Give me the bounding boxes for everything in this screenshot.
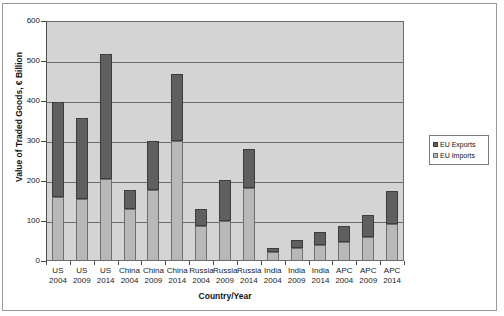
- legend-item-eu-imports: EU Imports: [433, 150, 486, 161]
- bar-segment-eu-exports: [291, 240, 303, 248]
- bar-chart: 6005004003002001000 Value of Traded Good…: [0, 0, 504, 316]
- bar-segment-eu-imports: [100, 179, 112, 261]
- bar-segment-eu-exports: [362, 215, 374, 237]
- bar-us-2009[interactable]: [76, 21, 88, 261]
- bar-russia-2014[interactable]: [243, 21, 255, 261]
- bar-segment-eu-imports: [386, 224, 398, 261]
- x-tick-label-china-2004: China2004: [118, 266, 142, 286]
- x-tick-10: [285, 261, 286, 265]
- x-tick-14: [380, 261, 381, 265]
- bar-segment-eu-imports: [147, 190, 159, 261]
- bar-segment-eu-imports: [314, 245, 326, 261]
- x-tick-label-apc-2009: APC2009: [356, 266, 380, 286]
- bar-segment-eu-exports: [314, 232, 326, 245]
- chart-legend: EU Exports EU Imports: [429, 135, 489, 165]
- bar-segment-eu-exports: [124, 190, 136, 209]
- bar-segment-eu-imports: [243, 188, 255, 261]
- x-tick-1: [70, 261, 71, 265]
- bar-apc-2004[interactable]: [338, 21, 350, 261]
- bar-segment-eu-imports: [362, 237, 374, 261]
- bars-layer: [46, 21, 404, 261]
- x-tick-7: [213, 261, 214, 265]
- x-tick-label-us-2014: US2014: [94, 266, 118, 286]
- bar-india-2004[interactable]: [267, 21, 279, 261]
- bar-segment-eu-exports: [243, 149, 255, 188]
- x-tick-6: [189, 261, 190, 265]
- x-tick-label-india-2014: India2014: [309, 266, 333, 286]
- x-tick-12: [332, 261, 333, 265]
- bar-apc-2009[interactable]: [362, 21, 374, 261]
- x-tick-end: [404, 261, 405, 265]
- x-tick-3: [118, 261, 119, 265]
- x-tick-9: [261, 261, 262, 265]
- x-tick-0: [46, 261, 47, 265]
- bar-russia-2004[interactable]: [195, 21, 207, 261]
- bar-segment-eu-imports: [124, 209, 136, 261]
- x-tick-label-russia-2009: Russia2009: [213, 266, 237, 286]
- x-tick-11: [309, 261, 310, 265]
- bar-segment-eu-imports: [338, 242, 350, 261]
- x-tick-label-china-2014: China2014: [165, 266, 189, 286]
- x-tick-5: [165, 261, 166, 265]
- bar-india-2014[interactable]: [314, 21, 326, 261]
- bar-india-2009[interactable]: [291, 21, 303, 261]
- exports-swatch-icon: [433, 142, 438, 147]
- bar-us-2014[interactable]: [100, 21, 112, 261]
- x-tick-label-russia-2014: Russia2014: [237, 266, 261, 286]
- bar-segment-eu-exports: [76, 118, 88, 199]
- y-axis-title: Value of Traded Goods, € Billion: [14, 32, 24, 202]
- x-tick-2: [94, 261, 95, 265]
- bar-segment-eu-exports: [195, 209, 207, 226]
- x-tick-label-us-2004: US2004: [46, 266, 70, 286]
- imports-swatch-icon: [433, 153, 438, 158]
- bar-segment-eu-imports: [171, 141, 183, 261]
- y-tick-label-100: 100: [6, 217, 40, 225]
- bar-china-2009[interactable]: [147, 21, 159, 261]
- x-tick-label-us-2009: US2009: [70, 266, 94, 286]
- bar-segment-eu-imports: [52, 197, 64, 261]
- bar-segment-eu-exports: [100, 54, 112, 179]
- legend-item-eu-exports: EU Exports: [433, 139, 486, 150]
- bar-segment-eu-exports: [267, 248, 279, 252]
- bar-segment-eu-imports: [267, 252, 279, 261]
- bar-segment-eu-exports: [219, 180, 231, 221]
- bar-segment-eu-exports: [386, 191, 398, 224]
- bar-russia-2009[interactable]: [219, 21, 231, 261]
- bar-segment-eu-exports: [338, 226, 350, 242]
- x-tick-8: [237, 261, 238, 265]
- legend-label-eu-exports: EU Exports: [440, 141, 475, 148]
- x-tick-13: [356, 261, 357, 265]
- bar-segment-eu-imports: [195, 226, 207, 261]
- legend-label-eu-imports: EU Imports: [440, 152, 475, 159]
- bar-segment-eu-exports: [171, 74, 183, 141]
- x-tick-4: [141, 261, 142, 265]
- x-tick-label-china-2009: China2009: [141, 266, 165, 286]
- bar-segment-eu-exports: [52, 102, 64, 197]
- bar-china-2004[interactable]: [124, 21, 136, 261]
- y-tick-label-0: 0: [6, 257, 40, 265]
- bar-segment-eu-exports: [147, 141, 159, 190]
- x-tick-label-india-2009: India2009: [285, 266, 309, 286]
- bar-segment-eu-imports: [219, 221, 231, 261]
- x-tick-label-india-2004: India2004: [261, 266, 285, 286]
- bar-segment-eu-imports: [76, 199, 88, 261]
- x-tick-label-russia-2004: Russia2004: [189, 266, 213, 286]
- bar-segment-eu-imports: [291, 248, 303, 261]
- bar-us-2004[interactable]: [52, 21, 64, 261]
- x-axis-title: Country/Year: [46, 291, 404, 301]
- x-tick-label-apc-2004: APC2004: [332, 266, 356, 286]
- bar-china-2014[interactable]: [171, 21, 183, 261]
- x-tick-label-apc-2014: APC2014: [380, 266, 404, 286]
- bar-apc-2014[interactable]: [386, 21, 398, 261]
- y-tick-label-600: 600: [6, 17, 40, 25]
